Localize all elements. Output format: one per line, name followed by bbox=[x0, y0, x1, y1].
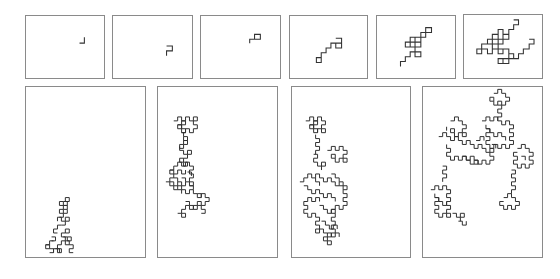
panel-top-4 bbox=[289, 15, 368, 79]
panel-bottom-1 bbox=[25, 86, 146, 258]
panel-bottom-4 bbox=[422, 86, 543, 258]
aggregate-cluster-icon bbox=[423, 87, 542, 257]
lattice-walk-icon bbox=[201, 16, 280, 78]
panel-top-2 bbox=[112, 15, 193, 79]
lattice-walk-icon bbox=[26, 16, 104, 78]
aggregate-cluster-icon bbox=[26, 87, 145, 257]
aggregate-cluster-icon bbox=[292, 87, 410, 257]
lattice-walk-icon bbox=[113, 16, 192, 78]
panel-top-1 bbox=[25, 15, 105, 79]
aggregate-cluster-icon bbox=[158, 87, 277, 257]
lattice-walk-icon bbox=[464, 15, 542, 78]
panel-bottom-2 bbox=[157, 86, 278, 258]
panel-top-6 bbox=[463, 14, 543, 79]
lattice-walk-icon bbox=[377, 16, 455, 78]
panel-top-3 bbox=[200, 15, 281, 79]
lattice-walk-icon bbox=[290, 16, 367, 78]
panel-bottom-3 bbox=[291, 86, 411, 258]
panel-top-5 bbox=[376, 15, 456, 79]
